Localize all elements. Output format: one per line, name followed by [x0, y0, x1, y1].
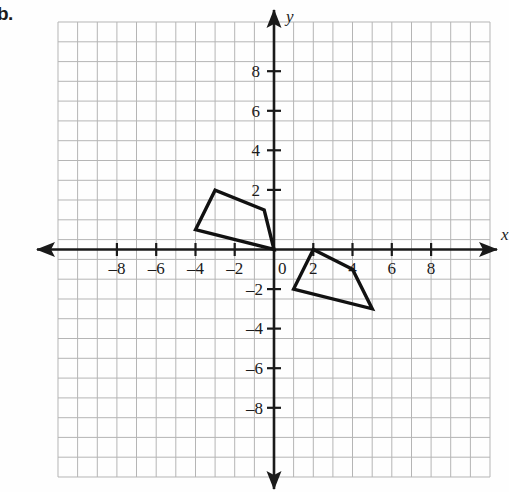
x-tick-label-6: 6 — [388, 259, 397, 278]
y-tick-label--6: –6 — [245, 359, 263, 378]
coordinate-graph: –8 –6 –4 –2 2 4 6 8 8 6 4 2 –2 –4 –6 –8 … — [0, 0, 509, 492]
y-tick-label--8: –8 — [245, 399, 263, 418]
x-tick-label-8: 8 — [427, 259, 436, 278]
y-axis-label: y — [284, 7, 294, 26]
x-tick-label--4: –4 — [186, 259, 205, 278]
y-tick-label-6: 6 — [252, 102, 261, 121]
x-tick-label--6: –6 — [147, 259, 165, 278]
y-tick-label-2: 2 — [252, 181, 261, 200]
origin-label: 0 — [278, 259, 287, 278]
x-tick-label-2: 2 — [309, 259, 318, 278]
x-tick-label--8: –8 — [107, 259, 125, 278]
x-axis-label: x — [500, 225, 509, 244]
y-tick-label--4: –4 — [245, 319, 264, 338]
y-tick-label-4: 4 — [252, 141, 261, 160]
worksheet-page: b. — [0, 0, 509, 492]
y-tick-label--2: –2 — [245, 280, 263, 299]
x-axis-tick-labels: –8 –6 –4 –2 2 4 6 8 — [107, 259, 435, 278]
y-tick-label-8: 8 — [252, 62, 261, 81]
x-tick-label--2: –2 — [225, 259, 243, 278]
